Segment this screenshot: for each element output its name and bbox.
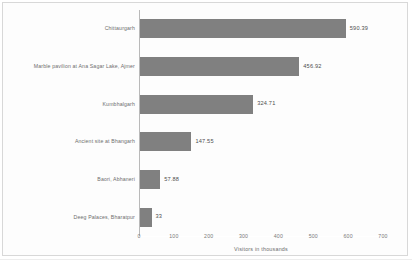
bar[interactable] xyxy=(140,132,191,151)
bar-row: Deeg Palaces, Bharatpur33 xyxy=(0,198,412,236)
x-axis-title: Visitors in thousands xyxy=(139,247,383,252)
figure-bottom-edge xyxy=(0,259,412,260)
x-axis-ticks: 0100200300400500600700 xyxy=(0,234,412,246)
bar-value-label: 590.39 xyxy=(350,26,368,32)
bar-row: Chittaurgarh590.39 xyxy=(0,10,412,48)
category-label: Chittaurgarh xyxy=(0,26,135,31)
x-tick-label: 0 xyxy=(137,234,140,239)
bar-with-value: 324.71 xyxy=(140,85,275,123)
category-label: Baori, Abhaneri xyxy=(0,177,135,182)
chart-screenshot: Chittaurgarh590.39Marble pavilion at Ana… xyxy=(0,0,412,266)
bar[interactable] xyxy=(140,170,160,189)
bar-row: Baori, Abhaneri57.88 xyxy=(0,161,412,199)
bar-value-label: 456.92 xyxy=(303,64,321,70)
bar-value-label: 33 xyxy=(156,214,163,220)
bar-with-value: 57.88 xyxy=(140,161,179,199)
category-label: Deeg Palaces, Bharatpur xyxy=(0,215,135,220)
x-tick-label: 600 xyxy=(344,234,353,239)
bar-with-value: 590.39 xyxy=(140,10,368,48)
category-label: Kumbhalgarh xyxy=(0,102,135,107)
category-label: Marble pavilion at Ana Sagar Lake, Ajmer xyxy=(0,64,135,69)
bar-value-label: 57.88 xyxy=(164,177,179,183)
bar-with-value: 33 xyxy=(140,198,162,236)
x-tick-label: 400 xyxy=(274,234,283,239)
category-label: Ancient site at Bhangarh xyxy=(0,139,135,144)
bar-value-label: 147.55 xyxy=(195,139,213,145)
x-tick-label: 200 xyxy=(204,234,213,239)
x-tick-label: 500 xyxy=(309,234,318,239)
bar[interactable] xyxy=(140,208,152,227)
bar-row: Kumbhalgarh324.71 xyxy=(0,85,412,123)
bar[interactable] xyxy=(140,95,253,114)
bar-rows-container: Chittaurgarh590.39Marble pavilion at Ana… xyxy=(0,0,412,226)
x-tick-label: 700 xyxy=(378,234,387,239)
bar-row: Marble pavilion at Ana Sagar Lake, Ajmer… xyxy=(0,48,412,86)
bar-row: Ancient site at Bhangarh147.55 xyxy=(0,123,412,161)
bar[interactable] xyxy=(140,19,346,38)
bar-value-label: 324.71 xyxy=(257,101,275,107)
x-tick-label: 100 xyxy=(169,234,178,239)
x-tick-label: 300 xyxy=(239,234,248,239)
bar[interactable] xyxy=(140,57,299,76)
bar-with-value: 456.92 xyxy=(140,48,322,86)
bar-with-value: 147.55 xyxy=(140,123,214,161)
